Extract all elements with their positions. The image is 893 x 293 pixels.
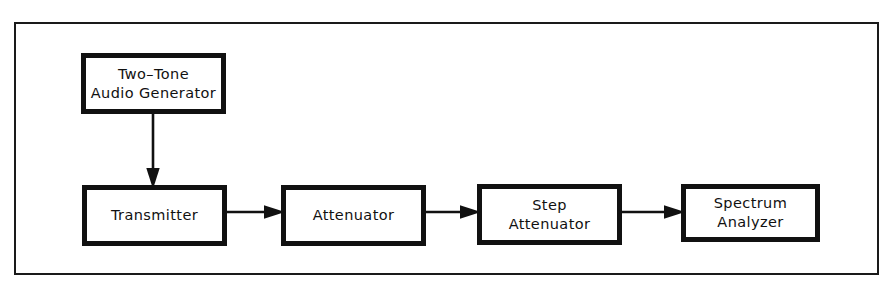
block-diagram-canvas: Two–Tone Audio Generator Transmitter Att… [0,0,893,293]
block-transmitter: Transmitter [82,185,227,246]
block-label-step-attenuator: Step Attenuator [505,196,595,234]
block-spectrum-analyzer: Spectrum Analyzer [681,184,820,242]
block-label-spectrum-analyzer: Spectrum Analyzer [710,194,791,232]
block-attenuator: Attenuator [281,185,426,246]
block-step-attenuator: Step Attenuator [477,184,622,245]
block-label-attenuator: Attenuator [309,206,399,225]
block-label-transmitter: Transmitter [107,206,202,225]
block-two-tone-audio-generator: Two–Tone Audio Generator [81,53,226,114]
block-label-two-tone-audio-generator: Two–Tone Audio Generator [87,65,220,103]
